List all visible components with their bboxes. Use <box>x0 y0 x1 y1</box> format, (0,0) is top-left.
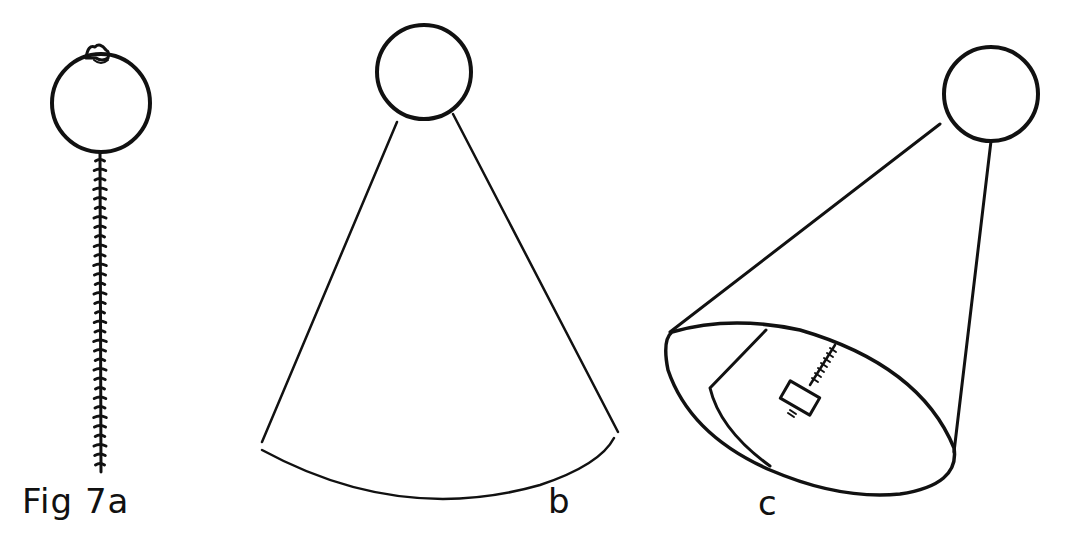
panel-b-right-edge <box>453 114 618 432</box>
panel-c-drawing <box>666 47 1038 495</box>
panel-b-drawing <box>262 25 618 499</box>
panel-c-ellipse-opening <box>666 323 955 495</box>
panel-a-drawing <box>52 45 150 472</box>
panel-c-rectangle <box>780 381 819 415</box>
diagram-drawing <box>0 0 1068 545</box>
panel-c-fold-line <box>710 330 770 466</box>
figure-label-a: Fig 7a <box>22 484 129 518</box>
figure-canvas: Fig 7a b c <box>0 0 1068 545</box>
panel-c-right-edge <box>954 141 991 452</box>
panel-b-circle <box>377 25 471 119</box>
figure-label-b: b <box>548 484 571 518</box>
figure-label-c: c <box>758 486 778 520</box>
panel-a-circle <box>52 54 150 152</box>
panel-b-left-edge <box>262 122 397 442</box>
panel-c-circle <box>944 47 1038 141</box>
panel-c-upper-edge <box>670 124 940 332</box>
